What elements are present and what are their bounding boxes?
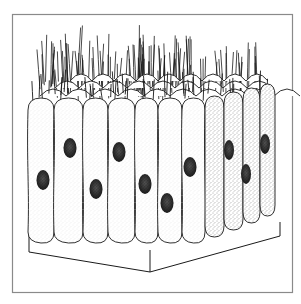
side-cell — [241, 88, 260, 223]
side-cell — [205, 96, 224, 237]
epithelium-illustration — [0, 0, 301, 304]
front-cell — [54, 98, 84, 243]
front-cell — [28, 98, 55, 243]
side-cell — [224, 92, 243, 230]
side-cell — [260, 84, 275, 216]
front-cell — [158, 98, 183, 243]
epithelium-drawing — [0, 0, 301, 304]
columnar-cells — [28, 84, 275, 243]
front-cell — [83, 98, 109, 243]
front-cell — [182, 98, 206, 243]
front-cell — [108, 98, 136, 243]
front-cell — [135, 98, 159, 243]
